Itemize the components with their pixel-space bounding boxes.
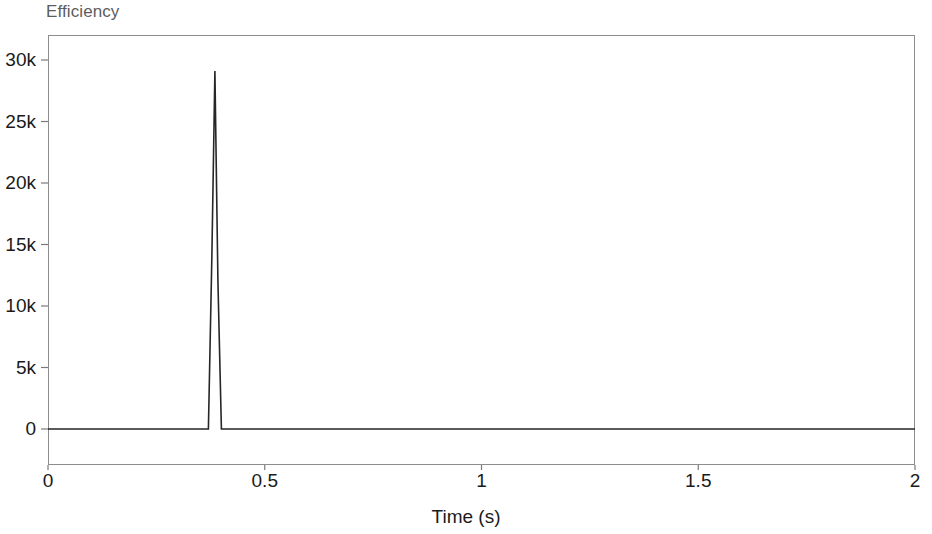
x-axis-tick-label: 1.5 [685,470,711,492]
y-axis-tick-label: 5k [0,357,36,379]
chart-title: Efficiency [46,2,119,22]
plot-area [48,35,915,465]
chart-figure: Efficiency 05k10k15k20k25k30k 00.511.52 … [0,0,932,534]
y-axis-tick-label: 25k [0,111,36,133]
x-axis-tick-label: 2 [910,470,921,492]
x-axis-title: Time (s) [0,506,932,528]
y-axis-tick-label: 15k [0,234,36,256]
y-axis-tick-marks [41,60,48,429]
x-axis-tick-label: 1 [476,470,487,492]
y-axis-tick-label: 10k [0,295,36,317]
y-axis-tick-label: 20k [0,172,36,194]
y-axis-tick-label: 0 [0,418,36,440]
x-axis-tick-label: 0 [43,470,54,492]
x-axis-tick-label: 0.5 [252,470,278,492]
y-axis-tick-label: 30k [0,49,36,71]
